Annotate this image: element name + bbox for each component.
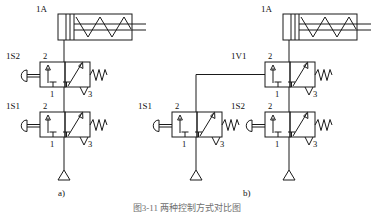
valve-1s1b-return-spring: [222, 120, 239, 131]
cylinder-return-spring: [76, 17, 131, 37]
valve-1s2b-port3-label: 3: [313, 139, 317, 149]
valve-1s1-right: 1S1 2 1 3: [138, 101, 239, 149]
pressure-source-triangle-b1: [190, 170, 202, 180]
circuit-diagram-canvas: 1A 1S2: [0, 0, 375, 213]
valve-1s2-exhaust-vee: [80, 87, 88, 95]
valve-1s2b-plunger-button: [246, 120, 252, 132]
circuit-a: 1A 1S2: [6, 4, 146, 198]
valve-1s1-port1-label: 1: [50, 139, 54, 149]
valve-1s1-plunger-button: [21, 120, 27, 132]
valve-1s1-port2-label: 2: [43, 101, 47, 111]
subfigure-label-b: b): [243, 188, 251, 198]
cylinder-1a-label-b: 1A: [261, 4, 273, 14]
valve-1v1-box-right: [290, 62, 315, 87]
cylinder-barrel-b: [283, 14, 357, 40]
subfigure-label-a: a): [58, 188, 65, 198]
valve-1s2b-box-right: [290, 112, 315, 137]
valve-1s1b-port1-label: 1: [182, 139, 186, 149]
valve-1s1-tag: 1S1: [6, 101, 20, 111]
valve-1s2b-tag: 1S2: [231, 101, 245, 111]
valve-1s1b-port2-label: 2: [175, 101, 179, 111]
pressure-source-triangle-a: [58, 170, 70, 180]
valve-1v1-port3-label: 3: [313, 89, 317, 99]
valve-1s2-plunger-button: [21, 70, 27, 82]
valve-1v1-tag: 1V1: [231, 51, 247, 61]
valve-1s2b-port2-label: 2: [268, 101, 272, 111]
valve-1v1-port1-label: 1: [275, 89, 279, 99]
valve-1s2b-exhaust-vee: [305, 137, 313, 145]
valve-1s1-left: 1S1 2 1 3: [6, 101, 107, 149]
valve-1s2b-return-spring: [315, 120, 332, 131]
valve-1s2-port1-label: 1: [50, 89, 54, 99]
figure-caption: 图3-11 两种控制方式对比图: [133, 202, 241, 213]
valve-1s1-port3-label: 3: [88, 139, 92, 149]
valve-1s1b-box-right: [197, 112, 222, 137]
valve-1s1b-plunger-button: [153, 120, 159, 132]
cylinder-1a-left: 1A: [36, 4, 146, 62]
valve-1s1-box-right: [65, 112, 90, 137]
valve-1v1-exhaust-vee: [305, 87, 313, 95]
valve-1v1-return-spring: [315, 70, 332, 81]
cylinder-1a-label: 1A: [36, 4, 48, 14]
cylinder-b-return-spring: [301, 17, 356, 37]
valve-1s1b-port3-label: 3: [220, 139, 224, 149]
valve-1s2-box-right: [65, 62, 90, 87]
valve-1s2-tag: 1S2: [6, 51, 20, 61]
cylinder-1a-right: 1A: [261, 4, 371, 62]
valve-1v1-port2-label: 2: [268, 51, 272, 61]
valve-1s2b-port1-label: 1: [275, 139, 279, 149]
pneumatic-circuit-figure: 1A 1S2: [0, 0, 375, 213]
valve-1s2-port3-label: 3: [88, 89, 92, 99]
valve-1s2-port2-label: 2: [43, 51, 47, 61]
valve-1s1b-tag: 1S1: [138, 101, 152, 111]
valve-1s2-left: 1S2 2 1 3: [6, 51, 107, 99]
circuit-b: 1A 1V1 2 1 3: [138, 4, 371, 198]
valve-1s2-return-spring: [90, 70, 107, 81]
valve-1s2-right: 1S2 2 1 3: [231, 101, 332, 149]
valve-1s1b-exhaust-vee: [212, 137, 220, 145]
valve-1s1-exhaust-vee: [80, 137, 88, 145]
valve-1s1-return-spring: [90, 120, 107, 131]
pressure-source-triangle-b2: [283, 170, 295, 180]
cylinder-barrel: [58, 14, 132, 40]
